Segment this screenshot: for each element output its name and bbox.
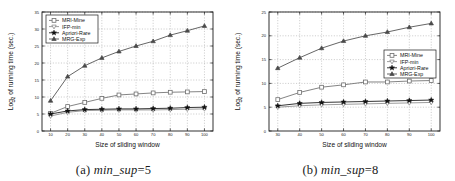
x-tick-label: 80: [168, 132, 173, 137]
legend-label: MRG-Exp: [62, 36, 85, 42]
x-tick-label: 90: [407, 132, 412, 137]
data-point-marker-square: [298, 91, 302, 95]
caption-b-prefix: (b): [303, 163, 318, 177]
caption-a-value: =5: [137, 163, 151, 177]
caption-a-param: min_sup: [94, 163, 138, 177]
series-mri-mine: [49, 90, 207, 116]
y-tick-label: 10: [261, 81, 266, 86]
data-point-marker-square: [203, 90, 207, 94]
y-tick-label: 0: [264, 129, 267, 134]
x-tick-label: 20: [65, 132, 70, 137]
legend-label: MRI-Mine: [400, 52, 423, 58]
data-point-marker-square: [320, 85, 324, 89]
y-tick-label: 0: [37, 129, 40, 134]
legend: MRI-MineIFP-minApriori-RareMRG-Exp: [384, 50, 436, 78]
data-point-marker-triangle-up: [65, 74, 69, 78]
x-tick-label: 40: [100, 132, 105, 137]
data-point-marker-square: [342, 83, 346, 87]
legend-label: IFP-min: [400, 59, 419, 65]
chart-a-plot-area: 05101520253035102030405060708090100Size …: [0, 0, 227, 152]
caption-b-value: =8: [365, 163, 379, 177]
y-axis-title: Log2 of running time (sec.): [234, 33, 243, 110]
data-point-marker-square: [364, 80, 368, 84]
y-tick-label: 5: [37, 112, 40, 117]
legend-label: IFP-min: [62, 24, 81, 30]
x-tick-label: 60: [341, 132, 346, 137]
y-tick-label: 20: [261, 33, 266, 38]
y-tick-label: 15: [261, 57, 266, 62]
data-point-marker-square: [168, 90, 172, 94]
x-tick-label: 30: [82, 132, 87, 137]
x-tick-label: 40: [297, 132, 302, 137]
data-point-marker-square: [83, 101, 87, 105]
data-point-marker-triangle-up: [202, 24, 206, 28]
data-point-marker-square: [151, 91, 155, 95]
legend: MRI-MineIFP-minApriori-RareMRG-Exp: [46, 15, 98, 43]
y-tick-label: 25: [261, 10, 266, 15]
data-point-marker-square: [385, 80, 389, 84]
x-tick-label: 70: [151, 132, 156, 137]
data-point-marker-square: [429, 79, 433, 83]
caption-b-param: min_sup: [321, 163, 365, 177]
x-tick-label: 100: [201, 132, 209, 137]
chart-b-svg: 051015202530405060708090100Size of slidi…: [227, 0, 454, 152]
legend-label: Apriori-Rare: [400, 65, 429, 71]
y-tick-label: 35: [34, 10, 39, 15]
x-axis-title: Size of sliding window: [95, 141, 160, 149]
data-point-marker-square: [134, 92, 138, 96]
y-tick-label: 25: [34, 44, 39, 49]
panel-a: 05101520253035102030405060708090100Size …: [0, 0, 227, 181]
chart-b-plot-area: 051015202530405060708090100Size of slidi…: [227, 0, 454, 152]
x-tick-label: 10: [48, 132, 53, 137]
data-point-marker-triangle-up: [429, 21, 433, 25]
data-point-marker-square: [117, 93, 121, 97]
x-axis-title: Size of sliding window: [322, 141, 387, 149]
data-point-marker-square: [276, 98, 280, 102]
y-tick-label: 5: [264, 105, 267, 110]
x-tick-label: 80: [385, 132, 390, 137]
y-tick-label: 10: [34, 95, 39, 100]
x-tick-label: 70: [363, 132, 368, 137]
y-axis-title: Log2 of running time (sec.): [7, 33, 16, 110]
data-point-marker-square: [390, 54, 394, 58]
data-point-marker-square: [52, 19, 56, 23]
caption-a-prefix: (a): [76, 163, 90, 177]
data-point-marker-square: [100, 96, 104, 100]
panel-b: 051015202530405060708090100Size of slidi…: [227, 0, 454, 181]
y-tick-label: 20: [34, 61, 39, 66]
y-tick-label: 15: [34, 78, 39, 83]
figure-two-panel-line-charts: 05101520253035102030405060708090100Size …: [0, 0, 455, 181]
x-tick-label: 50: [319, 132, 324, 137]
x-tick-label: 100: [428, 132, 436, 137]
data-point-marker-square: [185, 90, 189, 94]
x-tick-label: 60: [134, 132, 139, 137]
legend-label: MRI-Mine: [62, 17, 85, 23]
legend-label: MRG-Exp: [400, 71, 423, 77]
caption-panel-a: (a) min_sup=5: [0, 163, 227, 178]
x-tick-label: 50: [117, 132, 122, 137]
legend-label: Apriori-Rare: [62, 30, 91, 36]
chart-a-svg: 05101520253035102030405060708090100Size …: [0, 0, 227, 152]
x-tick-label: 90: [185, 132, 190, 137]
x-tick-label: 30: [275, 132, 280, 137]
data-point-marker-square: [407, 79, 411, 83]
caption-panel-b: (b) min_sup=8: [227, 163, 454, 178]
y-tick-label: 30: [34, 27, 39, 32]
